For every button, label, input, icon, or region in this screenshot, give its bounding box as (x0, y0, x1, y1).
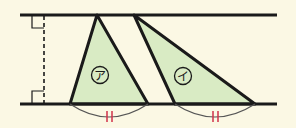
label-i: イ (177, 70, 189, 84)
right-angle-marker-bottom (32, 91, 44, 104)
base-arc-a (70, 104, 148, 117)
diagram-canvas: ア イ (0, 0, 296, 128)
triangle-i (134, 15, 255, 104)
right-angle-marker-top (32, 15, 44, 28)
diagram-svg: ア イ (0, 0, 296, 128)
base-arc-i (175, 104, 255, 117)
triangle-a (70, 15, 148, 104)
label-a: ア (94, 69, 106, 83)
